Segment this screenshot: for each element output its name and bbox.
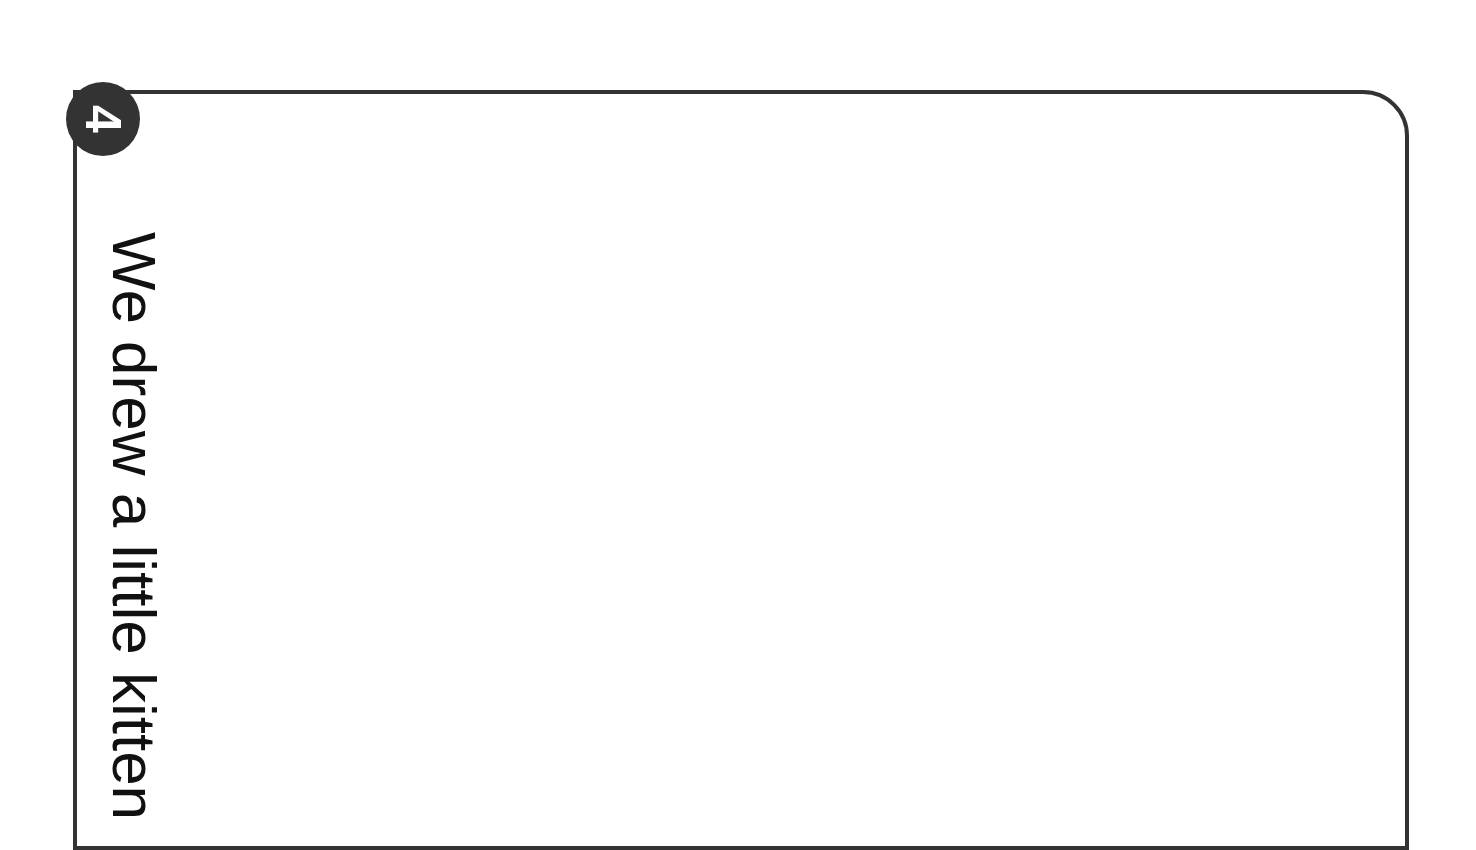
- page-number: 4: [78, 105, 128, 133]
- page-caption: We drew a little kitten: [103, 232, 165, 820]
- page-frame: [73, 90, 1409, 850]
- page-number-badge: 4: [66, 82, 140, 156]
